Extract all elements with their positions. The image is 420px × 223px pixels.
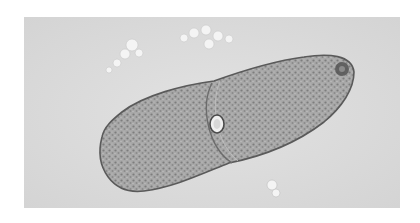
micrograph [24,17,400,208]
